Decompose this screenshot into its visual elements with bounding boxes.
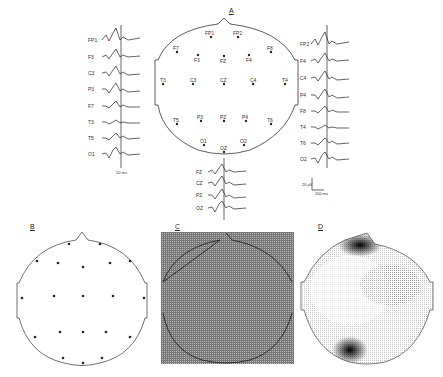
topographic-map <box>0 0 443 377</box>
